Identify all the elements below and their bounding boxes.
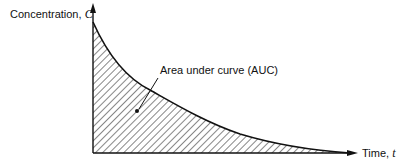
auc-hatched-area <box>93 20 355 154</box>
auc-annotation-label: Area under curve (AUC) <box>160 64 278 76</box>
x-axis-label: Time, t <box>362 146 396 160</box>
annotation-dot <box>135 109 139 113</box>
x-axis-arrow-icon <box>347 150 358 156</box>
y-axis-label: Concentration, C <box>10 7 94 21</box>
auc-diagram: Concentration, C Time, t Area under curv… <box>0 0 402 166</box>
